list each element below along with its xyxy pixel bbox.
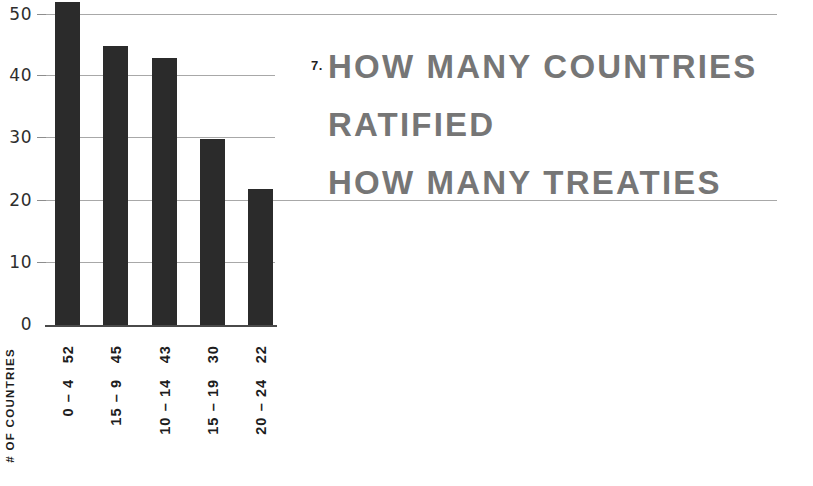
headline-line-3: HOW MANY TREATIES (328, 154, 808, 212)
bar-5-9 (103, 46, 128, 325)
ytick-label-0: 0 (2, 314, 32, 334)
ytick-mark-50 (37, 14, 46, 15)
headline-number: 7. (311, 58, 323, 73)
bar-20-24 (248, 189, 273, 325)
ytick-label-40: 40 (2, 65, 32, 85)
category-label-0-4: 0 – 4 52 (60, 345, 76, 475)
ytick-label-50: 50 (2, 4, 32, 24)
bar-0-4 (55, 2, 80, 325)
bar-chart-figure: 50 40 30 20 10 0 0 – 4 52 15 – 9 45 10 –… (0, 0, 813, 486)
headline-line-2: RATIFIED (328, 96, 808, 154)
bar-10-14 (152, 58, 177, 325)
headline-line-1: HOW MANY COUNTRIES (328, 38, 808, 96)
ytick-mark-20 (37, 200, 46, 201)
ytick-mark-10 (37, 262, 46, 263)
category-label-5-9: 15 – 9 45 (108, 345, 124, 475)
y-axis-title: # OF COUNTRIES (4, 348, 16, 468)
headline: HOW MANY COUNTRIES RATIFIED HOW MANY TRE… (328, 38, 808, 212)
category-label-10-14: 10 – 14 43 (157, 345, 173, 475)
x-axis-baseline (45, 325, 277, 327)
ytick-label-30: 30 (2, 127, 32, 147)
ytick-label-10: 10 (2, 252, 32, 272)
ytick-mark-30 (37, 137, 46, 138)
ytick-mark-40 (37, 75, 46, 76)
category-label-15-19: 15 – 19 30 (205, 345, 221, 475)
ytick-label-20: 20 (2, 190, 32, 210)
gridline-50 (45, 14, 777, 15)
category-label-20-24: 20 – 24 22 (253, 345, 269, 475)
bar-15-19 (200, 139, 225, 325)
